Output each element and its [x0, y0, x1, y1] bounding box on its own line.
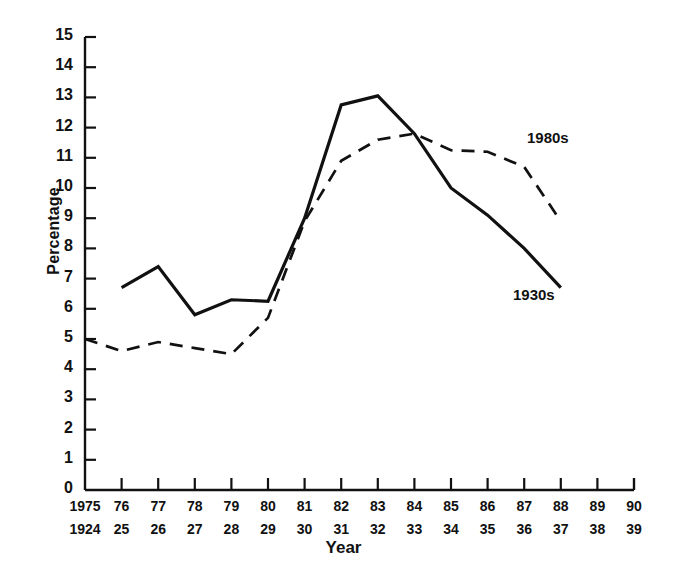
y-tick-label: 13: [33, 86, 73, 104]
y-tick-label: 12: [33, 117, 73, 135]
series-line-1930s: [122, 96, 561, 315]
y-tick-label: 15: [33, 26, 73, 44]
y-tick-label: 8: [33, 237, 73, 255]
chart-canvas: [0, 0, 687, 581]
x-axis-title: Year: [0, 538, 687, 558]
y-tick-label: 10: [33, 177, 73, 195]
y-tick-label: 2: [33, 419, 73, 437]
y-tick-label: 7: [33, 268, 73, 286]
label-1930s: 1930s: [513, 286, 555, 303]
axes: [85, 37, 634, 490]
y-tick-label: 11: [33, 147, 73, 165]
y-tick-label: 6: [33, 298, 73, 316]
x-tick-label-1980s-years: 90: [604, 498, 664, 514]
label-1980s: 1980s: [527, 129, 569, 146]
chart-container: Percentage Year 0123456789101112131415 1…: [0, 0, 687, 581]
y-tick-label: 0: [33, 479, 73, 497]
y-tick-label: 9: [33, 207, 73, 225]
y-tick-label: 1: [33, 449, 73, 467]
y-tick-label: 3: [33, 388, 73, 406]
y-tick-label: 5: [33, 328, 73, 346]
y-tick-label: 4: [33, 358, 73, 376]
data-series: [85, 96, 561, 354]
x-tick-label-1930s-years: 39: [604, 521, 664, 537]
y-tick-label: 14: [33, 56, 73, 74]
